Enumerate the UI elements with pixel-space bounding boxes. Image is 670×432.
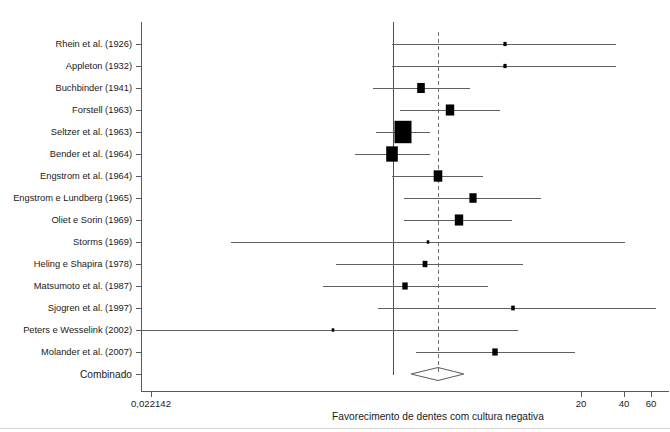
point-estimate-box — [503, 64, 506, 68]
study-label: Forstell (1963) — [72, 105, 132, 115]
study-row: Engstrom e Lundberg (1965) — [13, 193, 541, 203]
study-row: Rhein et al. (1926) — [56, 39, 617, 49]
study-label: Heling e Shapira (1978) — [34, 259, 132, 269]
study-row: Forstell (1963) — [72, 104, 500, 115]
point-estimate-box — [511, 306, 515, 311]
study-row: Bender et al. (1964) — [50, 146, 430, 161]
point-estimate-box — [423, 261, 428, 267]
study-label: Appleton (1932) — [66, 61, 132, 71]
study-label: Matsumoto et al. (1987) — [34, 281, 132, 291]
forest-plot-canvas: Rhein et al. (1926)Appleton (1932)Buchbi… — [0, 0, 670, 432]
point-estimate-box — [395, 121, 412, 143]
pooled-estimate-diamond — [411, 368, 464, 381]
pooled-row-label: Combinado — [80, 369, 132, 380]
point-estimate-box — [469, 193, 476, 203]
pooled-row-layer: Combinado — [80, 368, 464, 381]
forest-plot-figure: Rhein et al. (1926)Appleton (1932)Buchbi… — [0, 0, 670, 432]
point-estimate-box — [386, 146, 398, 161]
study-label: Bender et al. (1964) — [50, 149, 132, 159]
study-label: Buchbinder (1941) — [56, 83, 133, 93]
study-label: Seltzer et al. (1963) — [51, 127, 132, 137]
point-estimate-box — [492, 348, 497, 355]
study-row: Engstrom et al. (1964) — [40, 170, 483, 181]
study-label: Sjogren et al. (1997) — [48, 303, 132, 313]
point-estimate-box — [427, 240, 430, 243]
study-row: Buchbinder (1941) — [56, 83, 471, 93]
study-row: Oliet e Sorin (1969) — [51, 214, 512, 225]
study-label: Rhein et al. (1926) — [56, 39, 133, 49]
x-tick-label: 20 — [576, 398, 587, 409]
study-label: Engstrom e Lundberg (1965) — [13, 193, 132, 203]
study-row: Heling e Shapira (1978) — [34, 259, 523, 269]
x-tick-label: 60 — [646, 398, 657, 409]
point-estimate-box — [417, 83, 425, 93]
x-axis-title: Favorecimento de dentes com cultura nega… — [332, 411, 544, 422]
point-estimate-box — [434, 170, 443, 181]
study-row: Seltzer et al. (1963) — [51, 121, 430, 143]
point-estimate-box — [503, 42, 506, 46]
study-label: Oliet e Sorin (1969) — [51, 215, 132, 225]
study-label: Peters e Wesselink (2002) — [23, 325, 132, 335]
point-estimate-box — [455, 214, 463, 225]
study-label: Storms (1969) — [73, 237, 132, 247]
study-row: Storms (1969) — [73, 237, 625, 247]
study-label: Molander et al. (2007) — [41, 347, 132, 357]
study-row: Matsumoto et al. (1987) — [34, 281, 488, 291]
study-rows-layer: Rhein et al. (1926)Appleton (1932)Buchbi… — [13, 39, 656, 357]
study-label: Engstrom et al. (1964) — [40, 171, 132, 181]
x-tick-label: 40 — [619, 398, 630, 409]
study-row: Appleton (1932) — [66, 61, 616, 71]
point-estimate-box — [402, 282, 407, 289]
point-estimate-box — [332, 328, 335, 331]
study-row: Sjogren et al. (1997) — [48, 303, 656, 313]
axis-labels-layer: 0,022142204060Favorecimento de dentes co… — [131, 398, 656, 422]
study-row: Peters e Wesselink (2002) — [23, 325, 518, 335]
x-tick-label: 0,022142 — [131, 398, 171, 409]
study-row: Molander et al. (2007) — [41, 347, 575, 357]
point-estimate-box — [446, 104, 454, 115]
